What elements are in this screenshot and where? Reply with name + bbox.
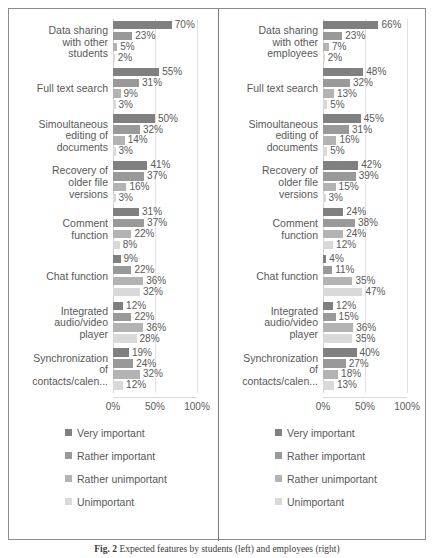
legend-item[interactable]: Unimportant [219, 490, 428, 513]
bar-group: 45%31%16%5% [323, 113, 420, 160]
bar [113, 255, 121, 263]
bar [323, 313, 336, 321]
bar-row: 36% [113, 276, 210, 286]
bar [113, 219, 144, 227]
bar-row: 27% [323, 359, 420, 369]
bar-value-label: 41% [150, 160, 170, 170]
bar [323, 381, 334, 389]
bar-row: 12% [113, 381, 210, 391]
bar-value-label: 27% [349, 359, 369, 369]
legend-item[interactable]: Rather unimportant [9, 467, 218, 490]
bar-value-label: 31% [142, 78, 162, 88]
bar-value-label: 4% [329, 254, 343, 264]
bar-row: 31% [113, 78, 210, 88]
bar-value-label: 47% [365, 287, 385, 297]
bar-row: 5% [323, 100, 420, 110]
bar-value-label: 35% [355, 276, 375, 286]
legend-item[interactable]: Very important [219, 421, 428, 444]
x-axis-employees: 0%50%100% [323, 401, 420, 417]
bar-group: 70%23%5%2% [113, 19, 210, 66]
category-label: Data sharing with other students [9, 25, 113, 60]
bar-row: 47% [323, 287, 420, 297]
bar-row: 16% [113, 182, 210, 192]
bar-value-label: 38% [358, 218, 378, 228]
category-row: Data sharing with other employees66%23%7… [219, 19, 428, 66]
bar-value-label: 14% [128, 135, 148, 145]
bar [113, 266, 131, 274]
category-label: Integrated audio/video player [219, 306, 323, 341]
legend-item[interactable]: Rather important [9, 444, 218, 467]
bar [113, 32, 132, 40]
bar [323, 147, 327, 155]
bar-value-label: 3% [329, 193, 343, 203]
legend-item[interactable]: Very important [9, 421, 218, 444]
category-row: Integrated audio/video player12%22%36%28… [9, 300, 218, 347]
bar-row: 9% [113, 254, 210, 264]
bar [323, 255, 326, 263]
category-row: Chat function4%11%35%47% [219, 253, 428, 300]
bar-row: 12% [323, 301, 420, 311]
legend-item[interactable]: Unimportant [9, 490, 218, 513]
legend-swatch-icon [65, 452, 72, 459]
bar [113, 161, 147, 169]
x-axis-tick: 100% [184, 401, 210, 412]
category-label: Simoultaneous editing of documents [9, 119, 113, 154]
bar [113, 313, 131, 321]
bar [323, 334, 352, 342]
bar-value-label: 23% [135, 31, 155, 41]
bar [113, 370, 140, 378]
bar-row: 12% [323, 240, 420, 250]
bar [323, 370, 338, 378]
bar-row: 22% [113, 265, 210, 275]
bar [323, 172, 356, 180]
category-row: Synchronization of contacts/calen...40%2… [219, 347, 428, 394]
bar-value-label: 22% [134, 229, 154, 239]
legend-item[interactable]: Rather unimportant [219, 467, 428, 490]
bar [113, 194, 116, 202]
bar-row: 14% [113, 136, 210, 146]
category-label: Recovery of older file versions [9, 165, 113, 200]
category-label: Comment function [9, 218, 113, 241]
bar [323, 89, 334, 97]
category-rows-students: Data sharing with other students70%23%5%… [9, 19, 218, 394]
legend-item[interactable]: Rather important [219, 444, 428, 467]
bar-row: 24% [113, 359, 210, 369]
bar-row: 32% [113, 125, 210, 135]
bar-row: 8% [113, 240, 210, 250]
figure-caption: Fig. 2 Expected features by students (le… [8, 544, 426, 554]
bar-row: 2% [113, 53, 210, 63]
bar [113, 183, 126, 191]
bar-value-label: 24% [136, 359, 156, 369]
legend-label: Unimportant [77, 496, 134, 508]
bar [113, 21, 172, 29]
bar [323, 114, 361, 122]
bar-value-label: 5% [120, 42, 134, 52]
legend-employees: Very importantRather importantRather uni… [219, 421, 428, 513]
plot-area-students: Data sharing with other students70%23%5%… [9, 19, 218, 414]
bar-row: 42% [323, 161, 420, 171]
category-label: Full text search [219, 83, 323, 95]
bar-group: 40%27%18%13% [323, 347, 420, 394]
bar [113, 68, 159, 76]
bar-value-label: 23% [345, 31, 365, 41]
bar-row: 22% [113, 229, 210, 239]
bar [323, 161, 358, 169]
bar [323, 32, 342, 40]
category-row: Full text search48%32%13%5% [219, 66, 428, 113]
bar-group: 9%22%36%32% [113, 253, 210, 300]
bar-row: 32% [113, 287, 210, 297]
bar-value-label: 5% [330, 100, 344, 110]
category-row: Comment function31%37%22%8% [9, 206, 218, 253]
bar-value-label: 37% [147, 171, 167, 181]
legend-swatch-icon [275, 498, 282, 505]
bar-row: 24% [323, 207, 420, 217]
bar-row: 36% [113, 323, 210, 333]
legend-swatch-icon [65, 429, 72, 436]
category-label: Chat function [9, 271, 113, 283]
bar [113, 381, 123, 389]
bar [323, 100, 327, 108]
x-axis-tick: 100% [394, 401, 420, 412]
bar-value-label: 11% [335, 265, 354, 275]
bar-row: 4% [323, 254, 420, 264]
bar [323, 302, 333, 310]
